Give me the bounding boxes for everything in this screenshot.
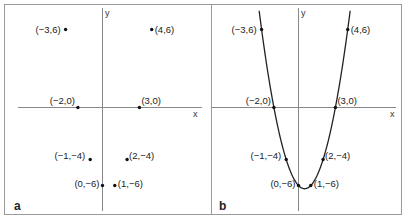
point-label: (1,−6) [314,178,339,189]
data-point [309,184,312,187]
data-point [346,28,349,31]
point-label: (1,−6) [118,178,143,189]
figure-frame [5,5,402,215]
data-point [285,158,288,161]
panel-label-a: a [14,199,21,213]
point-label: (−3,6) [232,24,257,35]
data-point [297,184,300,187]
data-point [334,106,337,109]
point-label: (−3,6) [36,24,61,35]
data-point [260,28,263,31]
data-point [76,106,79,109]
points-group: (−3,6)(4,6)(−2,0)(3,0)(−1,−4)(2,−4)(0,−6… [232,24,371,189]
x-axis-label: x [193,109,198,119]
panel-b: y x b (−3,6)(4,6)(−2,0)(3,0)(−1,−4)(2,−4… [212,8,396,213]
point-label: (2,−4) [325,150,350,161]
panel-a: y x a (−3,6)(4,6)(−2,0)(3,0)(−1,−4)(2,−4… [14,8,202,213]
points-group: (−3,6)(4,6)(−2,0)(3,0)(−1,−4)(2,−4)(0,−6… [36,24,175,189]
point-label: (0,−6) [270,178,295,189]
point-label: (3,0) [337,95,357,106]
data-point [64,28,67,31]
figure-canvas: y x a (−3,6)(4,6)(−2,0)(3,0)(−1,−4)(2,−4… [0,0,406,219]
point-label: (0,−6) [74,178,99,189]
point-label: (−2,0) [50,95,75,106]
point-label: (−1,−4) [55,150,86,161]
data-point [101,184,104,187]
data-point [89,158,92,161]
point-label: (3,0) [141,95,161,106]
y-axis-label: y [301,8,306,18]
x-axis-label: x [390,109,395,119]
data-point [113,184,116,187]
point-label: (−2,0) [246,95,271,106]
data-point [150,28,153,31]
data-point [138,106,141,109]
data-point [272,106,275,109]
point-label: (4,6) [351,24,371,35]
point-label: (2,−4) [129,150,154,161]
panel-label-b: b [219,199,226,213]
point-label: (4,6) [155,24,175,35]
point-label: (−1,−4) [251,150,282,161]
y-axis-label: y [105,8,110,18]
